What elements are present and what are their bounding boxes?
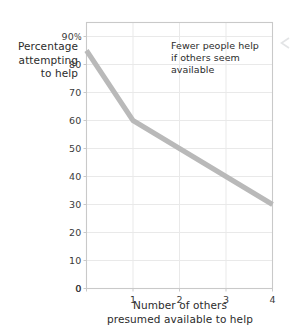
x-tick-label: 0	[64, 284, 82, 294]
y-tick-label: 30	[46, 200, 82, 210]
y-tick-label: 60	[46, 116, 82, 126]
percent-sign: %	[74, 33, 82, 42]
x-tick-label: 3	[217, 295, 235, 305]
y-tick-label: 40	[46, 172, 82, 182]
y-tick-label: 70	[46, 88, 82, 98]
y-tick-label: 90%	[46, 32, 82, 43]
chart-figure: Percentage attempting to help Number of …	[0, 0, 294, 332]
x-tick-label: 2	[171, 295, 189, 305]
chart-annotation: Fewer people help if others seem availab…	[171, 40, 281, 77]
y-tick-label: 10	[46, 256, 82, 266]
y-tick-label: 50	[46, 144, 82, 154]
y-tick-label: 20	[46, 228, 82, 238]
y-tick-label: 80	[46, 60, 82, 70]
x-tick-label: 4	[264, 295, 282, 305]
x-tick-label: 1	[124, 295, 142, 305]
